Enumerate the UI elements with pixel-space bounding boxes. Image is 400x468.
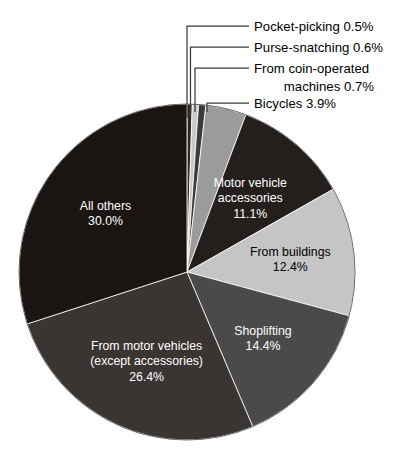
callout-label-line: From coin-operated [254,61,369,76]
slice-label-line: From buildings [250,245,331,259]
slice-label-line: From motor vehicles [91,339,202,353]
callout-label: From coin-operatedmachines 0.7% [254,61,374,94]
callout-label-line: Bicycles 3.9% [254,96,336,111]
pie-chart: Pocket-picking 0.5%Purse-snatching 0.6%F… [0,0,400,468]
callout-label-line: Pocket-picking 0.5% [254,19,374,34]
callout-labels-group: Pocket-picking 0.5%Purse-snatching 0.6%F… [254,19,383,111]
slice-label-line: 30.0% [88,214,123,228]
slice-label-line: Shoplifting [234,324,292,338]
slice-label-line: 11.1% [233,207,267,221]
slice-label-line: accessories [218,191,283,205]
callout-label: Bicycles 3.9% [254,96,336,111]
slice-label-line: 26.4% [129,370,164,384]
slice-label-line: 12.4% [273,260,308,274]
callout-label: Purse-snatching 0.6% [254,40,383,55]
slice-label-line: (except accessories) [90,354,203,368]
callout-label-line: machines 0.7% [284,79,374,94]
callout-label-line: Purse-snatching 0.6% [254,40,383,55]
slice-label-line: 14.4% [246,339,281,353]
slice-label-line: Motor vehicle [214,176,287,190]
pie-chart-svg: Pocket-picking 0.5%Purse-snatching 0.6%F… [0,0,400,468]
callout-label: Pocket-picking 0.5% [254,19,374,34]
slice-label-line: All others [80,199,131,213]
